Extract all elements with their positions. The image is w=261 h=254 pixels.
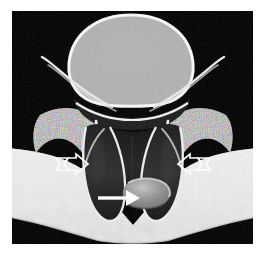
film-grain-overlay	[12, 11, 253, 244]
figure-root	[0, 0, 261, 254]
axial-scan-illustration	[12, 11, 253, 244]
scan-image-frame	[12, 11, 253, 244]
